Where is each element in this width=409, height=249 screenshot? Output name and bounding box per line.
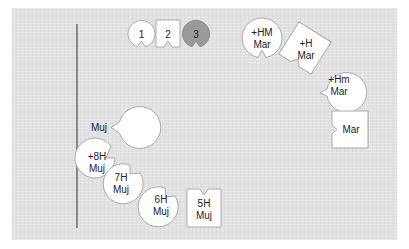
node-label-line1: +H — [299, 38, 312, 49]
node-label-line2: Muj — [113, 184, 129, 195]
node-6h-muj: 6H Muj — [138, 187, 178, 227]
node-label-line1: +HM — [251, 27, 272, 38]
node-label-line2: Muj — [153, 206, 169, 217]
legend-item-2: 2 — [156, 20, 180, 47]
notched-circle-shape — [111, 107, 161, 149]
legend-label: 1 — [139, 29, 145, 40]
node-hm-mar: +HM Mar — [242, 18, 282, 58]
node-label-line1: 6H — [155, 194, 168, 205]
node-5h-muj: 5H Muj — [187, 189, 221, 227]
node-label-line2: Muj — [196, 210, 212, 221]
node-label-line2: Mar — [330, 86, 348, 97]
node-label-line2: Mar — [297, 50, 315, 61]
legend-label: 2 — [165, 29, 171, 40]
node-hm2-mar: +Hm Mar — [320, 73, 367, 113]
node-label-line2: Mar — [253, 39, 271, 50]
diagram-canvas: 1 2 3 Muj +8H Muj 7H Muj 6H Muj 5H Muj + — [0, 0, 409, 249]
node-7h-muj: 7H Muj — [103, 164, 143, 204]
node-label-line2: Muj — [89, 163, 105, 174]
node-label-line1: 7H — [115, 172, 128, 183]
node-label-line1: +Hm — [328, 74, 349, 85]
legend-item-1: 1 — [128, 20, 155, 46]
legend-item-3: 3 — [182, 20, 209, 46]
node-label-line1: +8H — [88, 151, 107, 162]
node-label-line1: 5H — [198, 198, 211, 209]
node-label: Mar — [342, 124, 360, 135]
node-mar: Mar — [332, 111, 368, 148]
node-label: Muj — [91, 122, 107, 133]
legend-label: 3 — [193, 29, 199, 40]
